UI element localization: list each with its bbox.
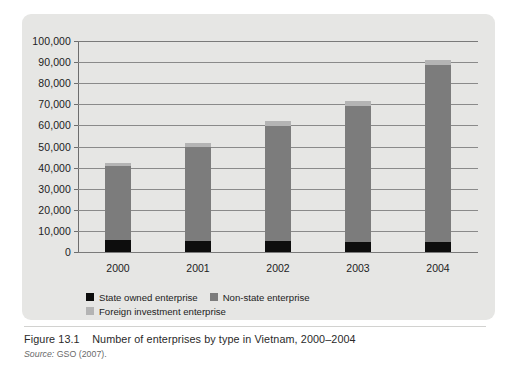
- y-axis-tick-label: 60,000: [38, 119, 71, 131]
- source-text: GSO (2007).: [57, 349, 107, 359]
- bar-segment-nonstate-2004: [425, 65, 451, 242]
- y-axis-tick-mark: [74, 147, 78, 148]
- legend-label-state: State owned enterprise: [99, 292, 198, 303]
- y-axis-tick-label: 90,000: [38, 56, 71, 68]
- bar-stack-2003: [345, 101, 371, 252]
- chart-legend: State owned enterprise Non-state enterpr…: [86, 290, 486, 318]
- y-axis-tick-mark: [74, 125, 78, 126]
- y-axis-tick-label: 30,000: [38, 183, 71, 195]
- x-axis-line: [78, 252, 478, 253]
- legend-label-foreign: Foreign investment enterprise: [99, 306, 226, 317]
- source-label: Source:: [24, 349, 54, 359]
- legend-swatch-nonstate-icon: [210, 293, 218, 301]
- bar-segment-nonstate-2001: [185, 147, 211, 240]
- y-axis-tick-label: 80,000: [38, 77, 71, 89]
- legend-entry-state: State owned enterprise: [86, 292, 198, 303]
- x-axis-tick-label-2003: 2003: [346, 262, 369, 274]
- gridline: [78, 62, 478, 63]
- bar-segment-nonstate-2002: [265, 126, 291, 241]
- bar-segment-state-2004: [425, 242, 451, 252]
- y-axis-tick-label: 0: [65, 246, 71, 258]
- bar-stack-2000: [105, 163, 131, 252]
- x-axis-tick-label-2004: 2004: [426, 262, 449, 274]
- figure-source-line: Source: GSO (2007).: [24, 349, 484, 359]
- y-axis-tick-mark: [74, 231, 78, 232]
- y-axis-tick-label: 100,000: [32, 35, 71, 47]
- x-axis-tick-label-2000: 2000: [106, 262, 129, 274]
- legend-entry-nonstate: Non-state enterprise: [210, 292, 310, 303]
- bar-segment-state-2003: [345, 242, 371, 252]
- bar-segment-state-2001: [185, 241, 211, 252]
- y-axis-tick-mark: [74, 189, 78, 190]
- figure-caption: Figure 13.1 Number of enterprises by typ…: [24, 333, 484, 359]
- caption-divider: [24, 326, 486, 327]
- caption-text-line: Figure 13.1 Number of enterprises by typ…: [24, 333, 484, 345]
- y-axis-tick-label: 20,000: [38, 204, 71, 216]
- y-axis-tick-label: 50,000: [38, 141, 71, 153]
- bar-stack-2004: [425, 60, 451, 252]
- legend-row-primary: State owned enterprise Non-state enterpr…: [86, 290, 486, 304]
- y-axis-tick-label: 70,000: [38, 98, 71, 110]
- y-axis-tick-label: 40,000: [38, 162, 71, 174]
- y-axis-tick-mark: [74, 41, 78, 42]
- y-axis-tick-mark: [74, 252, 78, 253]
- gridline: [78, 104, 478, 105]
- y-axis-tick-mark: [74, 104, 78, 105]
- bar-segment-state-2002: [265, 241, 291, 252]
- legend-label-nonstate: Non-state enterprise: [223, 292, 310, 303]
- legend-swatch-state-icon: [86, 293, 94, 301]
- figure-title: Number of enterprises by type in Vietnam…: [92, 333, 356, 345]
- y-axis-tick-label: 10,000: [38, 225, 71, 237]
- y-axis-tick-mark: [74, 168, 78, 169]
- y-axis-tick-mark: [74, 83, 78, 84]
- gridline: [78, 83, 478, 84]
- x-axis-tick-label-2002: 2002: [266, 262, 289, 274]
- bar-stack-2002: [265, 121, 291, 252]
- bar-segment-nonstate-2000: [105, 166, 131, 239]
- y-axis-tick-mark: [74, 210, 78, 211]
- legend-entry-foreign: Foreign investment enterprise: [86, 306, 226, 317]
- figure-panel: 010,00020,00030,00040,00050,00060,00070,…: [22, 14, 495, 320]
- figure-number: Figure 13.1: [24, 333, 80, 345]
- legend-row-secondary: Foreign investment enterprise: [86, 304, 486, 318]
- gridline: [78, 41, 478, 42]
- bar-segment-state-2000: [105, 240, 131, 252]
- bar-segment-nonstate-2003: [345, 106, 371, 242]
- legend-swatch-foreign-icon: [86, 307, 94, 315]
- y-axis-tick-mark: [74, 62, 78, 63]
- chart-plot-area: 010,00020,00030,00040,00050,00060,00070,…: [78, 41, 478, 253]
- bar-stack-2001: [185, 143, 211, 252]
- x-axis-tick-label-2001: 2001: [186, 262, 209, 274]
